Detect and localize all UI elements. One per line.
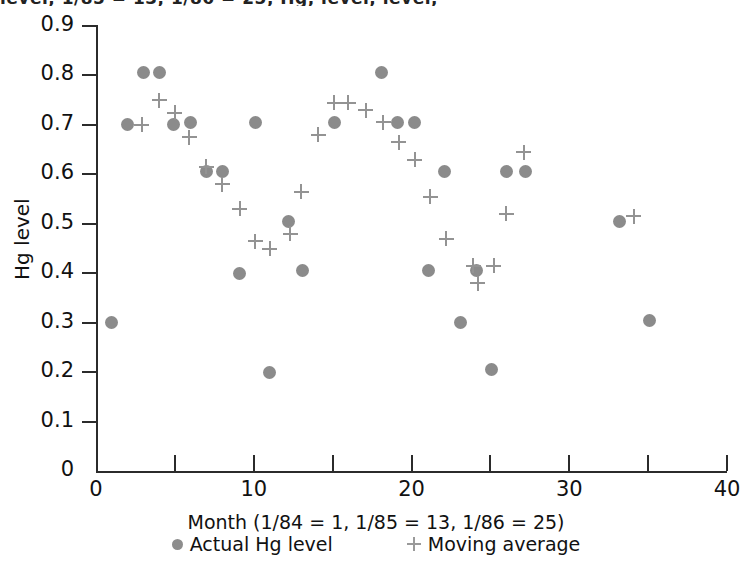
x-tick <box>411 455 413 471</box>
data-point-moving-average <box>199 159 214 174</box>
y-tick <box>82 223 98 225</box>
data-point-actual <box>167 118 180 131</box>
legend-label-actual: Actual Hg level <box>190 533 333 555</box>
data-point-moving-average <box>376 115 391 130</box>
data-point-moving-average <box>486 258 501 273</box>
data-point-actual <box>121 118 134 131</box>
y-tick <box>82 124 98 126</box>
data-point-moving-average <box>182 130 197 145</box>
data-point-moving-average <box>152 93 167 108</box>
y-tick <box>82 25 98 27</box>
x-tick <box>568 455 570 471</box>
data-point-actual <box>153 66 166 79</box>
x-tick <box>253 455 255 471</box>
data-point-actual <box>184 116 197 129</box>
data-point-moving-average <box>516 145 531 160</box>
x-axis-label: Month (1/84 = 1, 1/85 = 13, 1/86 = 25) <box>0 511 752 533</box>
data-point-actual <box>485 363 498 376</box>
data-point-actual <box>408 116 421 129</box>
legend-item-actual: Actual Hg level <box>172 533 333 555</box>
data-point-actual <box>263 366 276 379</box>
data-point-moving-average <box>423 189 438 204</box>
y-axis-label: Hg level <box>10 198 34 280</box>
data-point-actual <box>422 264 435 277</box>
x-tick <box>174 455 176 471</box>
scatter-chart: level, 1/85 = 13, 1/86 = 25, Hg, level, … <box>0 0 752 576</box>
data-point-actual <box>643 314 656 327</box>
legend-label-moving-average: Moving average <box>428 533 580 555</box>
data-point-moving-average <box>341 95 356 110</box>
y-tick-label: 0.3 <box>0 309 74 333</box>
data-point-actual <box>233 267 246 280</box>
y-axis-line <box>96 26 98 473</box>
data-point-moving-average <box>167 105 182 120</box>
y-tick-label: 0.7 <box>0 111 74 135</box>
cropped-header-text: level, 1/85 = 13, 1/86 = 25, Hg, level, … <box>0 0 752 6</box>
data-point-actual <box>249 116 262 129</box>
data-point-moving-average <box>407 152 422 167</box>
y-tick-label: 0.6 <box>0 160 74 184</box>
data-point-actual <box>519 165 532 178</box>
y-tick <box>82 74 98 76</box>
data-point-actual <box>438 165 451 178</box>
x-tick <box>726 455 728 471</box>
data-point-moving-average <box>439 231 454 246</box>
data-point-actual <box>500 165 513 178</box>
data-point-moving-average <box>499 206 514 221</box>
data-point-actual <box>613 215 626 228</box>
data-point-moving-average <box>311 127 326 142</box>
data-point-actual <box>296 264 309 277</box>
y-tick <box>82 421 98 423</box>
data-point-moving-average <box>134 117 149 132</box>
x-axis-line <box>96 471 727 473</box>
legend-item-moving-average: Moving average <box>407 533 580 555</box>
data-point-moving-average <box>358 103 373 118</box>
data-point-moving-average <box>215 177 230 192</box>
data-point-moving-average <box>262 241 277 256</box>
x-tick-label: 30 <box>529 477 609 501</box>
y-tick-label: 0.9 <box>0 12 74 36</box>
x-tick-label: 10 <box>214 477 294 501</box>
data-point-actual <box>328 116 341 129</box>
x-tick <box>332 455 334 471</box>
x-tick-label: 0 <box>56 477 136 501</box>
y-tick-label: 0.1 <box>0 408 74 432</box>
circle-marker-icon <box>172 539 183 550</box>
x-tick <box>647 455 649 471</box>
data-point-moving-average <box>248 234 263 249</box>
x-tick-label: 40 <box>687 477 752 501</box>
data-point-actual <box>375 66 388 79</box>
x-tick <box>489 455 491 471</box>
chart-legend: Actual Hg level Moving average <box>0 533 752 555</box>
data-point-actual <box>137 66 150 79</box>
data-point-actual <box>454 316 467 329</box>
data-point-moving-average <box>327 95 342 110</box>
y-tick <box>82 322 98 324</box>
data-point-actual <box>105 316 118 329</box>
data-point-moving-average <box>391 135 406 150</box>
plus-marker-icon <box>407 537 421 551</box>
data-point-moving-average <box>470 276 485 291</box>
y-tick-label: 0.2 <box>0 358 74 382</box>
data-point-moving-average <box>626 209 641 224</box>
data-point-moving-average <box>232 201 247 216</box>
data-point-moving-average <box>466 258 481 273</box>
y-tick-label: 0.8 <box>0 61 74 85</box>
y-tick <box>82 272 98 274</box>
data-point-actual <box>391 116 404 129</box>
y-tick <box>82 173 98 175</box>
y-tick <box>82 371 98 373</box>
data-point-moving-average <box>283 226 298 241</box>
x-tick-label: 20 <box>372 477 452 501</box>
data-point-moving-average <box>294 184 309 199</box>
